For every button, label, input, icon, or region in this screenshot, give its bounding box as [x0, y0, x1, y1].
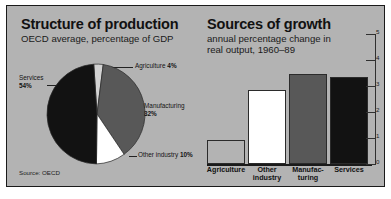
- y-tick-0: [366, 164, 375, 165]
- y-tick-4: [366, 60, 375, 61]
- source-note: Source: OECD: [19, 169, 60, 176]
- y-tick-label-4: 4: [376, 54, 379, 61]
- y-tick-label-0: 0: [376, 158, 379, 165]
- pie-label-other-industry-text: Other industry: [138, 151, 180, 158]
- y-tick-label-2: 2: [376, 106, 379, 113]
- pie-label-manufacturing-text: Manufacturing: [144, 102, 185, 109]
- y-tick-2: [366, 112, 375, 113]
- production-pie-chart: [45, 62, 149, 166]
- pie-label-other-industry: Other industry 10%: [138, 151, 193, 159]
- production-chart-title: Structure of production: [21, 16, 178, 32]
- figure-frame: Structure of production OECD average, pe…: [6, 5, 385, 187]
- pie-slice-services: [47, 64, 97, 164]
- pie-label-services-value: 54%: [19, 82, 32, 89]
- bar-other-industry: [248, 90, 286, 164]
- panel-sources-of-growth: Sources of growth annual percentage chan…: [199, 6, 385, 186]
- bar-agriculture: [207, 140, 245, 164]
- growth-bar-chart: Agriculture Other industry Manufac- turi…: [207, 54, 361, 164]
- pie-label-manufacturing-value: 32%: [144, 110, 157, 117]
- panel-structure-of-production: Structure of production OECD average, pe…: [7, 6, 199, 186]
- bar-manufacturing: [289, 74, 327, 164]
- y-tick-label-3: 3: [376, 80, 379, 87]
- pie-label-manufacturing: Manufacturing32%: [144, 102, 185, 118]
- pie-label-services: Services54%: [19, 74, 44, 90]
- y-tick-1: [366, 138, 375, 139]
- pie-label-other-industry-value: 10%: [180, 151, 193, 158]
- bar-label-other-industry: Other industry: [246, 166, 288, 183]
- pie-label-agriculture-text: Agriculture: [135, 62, 167, 69]
- y-tick-5: [366, 34, 375, 35]
- y-tick-label-1: 1: [376, 132, 379, 139]
- growth-chart-subtitle: annual percentage change in real output,…: [207, 33, 331, 55]
- bar-label-manufacturing: Manufac- turing: [287, 166, 329, 183]
- bar-label-services: Services: [328, 166, 370, 174]
- y-tick-3: [366, 86, 375, 87]
- bar-label-agriculture: Agriculture: [205, 166, 247, 174]
- pie-label-agriculture: Agriculture 4%: [135, 62, 177, 70]
- pie-label-agriculture-value: 4%: [167, 62, 176, 69]
- growth-chart-title: Sources of growth: [207, 16, 331, 32]
- y-tick-label-5: 5: [376, 28, 379, 35]
- pie-label-services-text: Services: [19, 74, 44, 81]
- production-chart-subtitle: OECD average, percentage of GDP: [21, 33, 174, 44]
- growth-y-axis: 5 4 3 2 1 0: [363, 34, 383, 165]
- pie-svg: [45, 62, 149, 166]
